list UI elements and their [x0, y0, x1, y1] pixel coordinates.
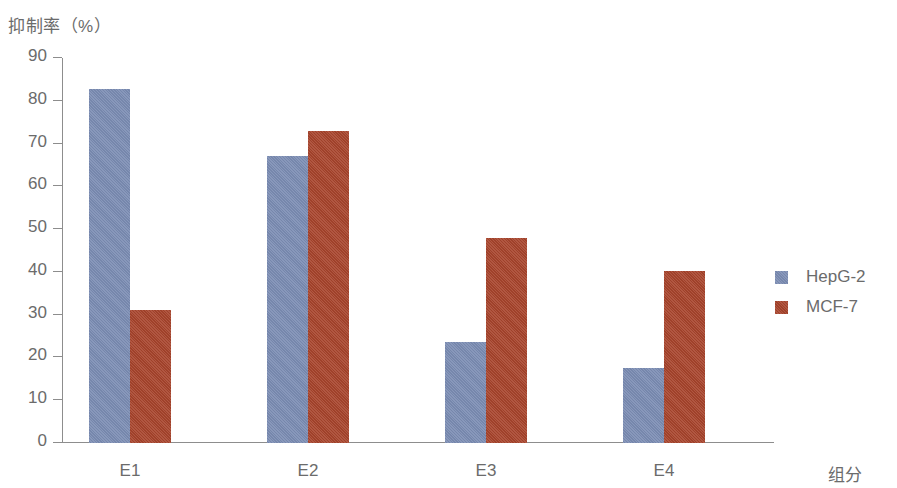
y-tick-label: 90	[28, 46, 47, 66]
y-tick: 0	[53, 442, 62, 443]
y-tick: 50	[53, 228, 62, 229]
bar	[664, 271, 705, 443]
x-tick-label-e3: E3	[445, 461, 527, 481]
bar-group	[89, 58, 171, 443]
legend-label: HepG-2	[806, 267, 866, 287]
x-tick-label-e4: E4	[623, 461, 705, 481]
y-tick-label: 10	[28, 388, 47, 408]
y-tick: 70	[53, 143, 62, 144]
chart-legend: HepG-2MCF-7	[775, 262, 866, 322]
bar-group	[623, 58, 705, 443]
plot-area: 0102030405060708090 E1E2E3E4	[62, 58, 774, 443]
bar	[130, 310, 171, 443]
y-tick: 10	[53, 399, 62, 400]
x-axis-title: 组分	[828, 461, 862, 486]
bar	[308, 131, 349, 443]
y-tick: 40	[53, 271, 62, 272]
y-tick: 60	[53, 185, 62, 186]
legend-swatch-icon	[775, 301, 788, 314]
y-axis-title: 抑制率（%）	[8, 12, 111, 37]
x-tick-label-e2: E2	[267, 461, 349, 481]
bar	[89, 89, 130, 443]
y-tick: 20	[53, 356, 62, 357]
bar-groups	[62, 58, 774, 443]
bar-chart: 抑制率（%） 0102030405060708090 E1E2E3E4 组分 H…	[0, 0, 897, 488]
y-tick-label: 20	[28, 345, 47, 365]
y-tick-label: 30	[28, 303, 47, 323]
y-tick-label: 0	[38, 431, 47, 451]
y-tick-label: 50	[28, 217, 47, 237]
y-tick: 90	[53, 57, 62, 58]
bar-group	[267, 58, 349, 443]
bar	[267, 156, 308, 443]
legend-item[interactable]: HepG-2	[775, 262, 866, 292]
bar	[623, 368, 664, 443]
y-tick-label: 60	[28, 174, 47, 194]
y-tick: 30	[53, 314, 62, 315]
legend-label: MCF-7	[806, 297, 858, 317]
legend-item[interactable]: MCF-7	[775, 292, 866, 322]
y-tick: 80	[53, 100, 62, 101]
y-tick-label: 40	[28, 260, 47, 280]
bar-group	[445, 58, 527, 443]
bar	[486, 238, 527, 443]
y-tick-label: 70	[28, 132, 47, 152]
y-tick-label: 80	[28, 89, 47, 109]
bar	[445, 342, 486, 443]
legend-swatch-icon	[775, 271, 788, 284]
x-tick-label-e1: E1	[89, 461, 171, 481]
